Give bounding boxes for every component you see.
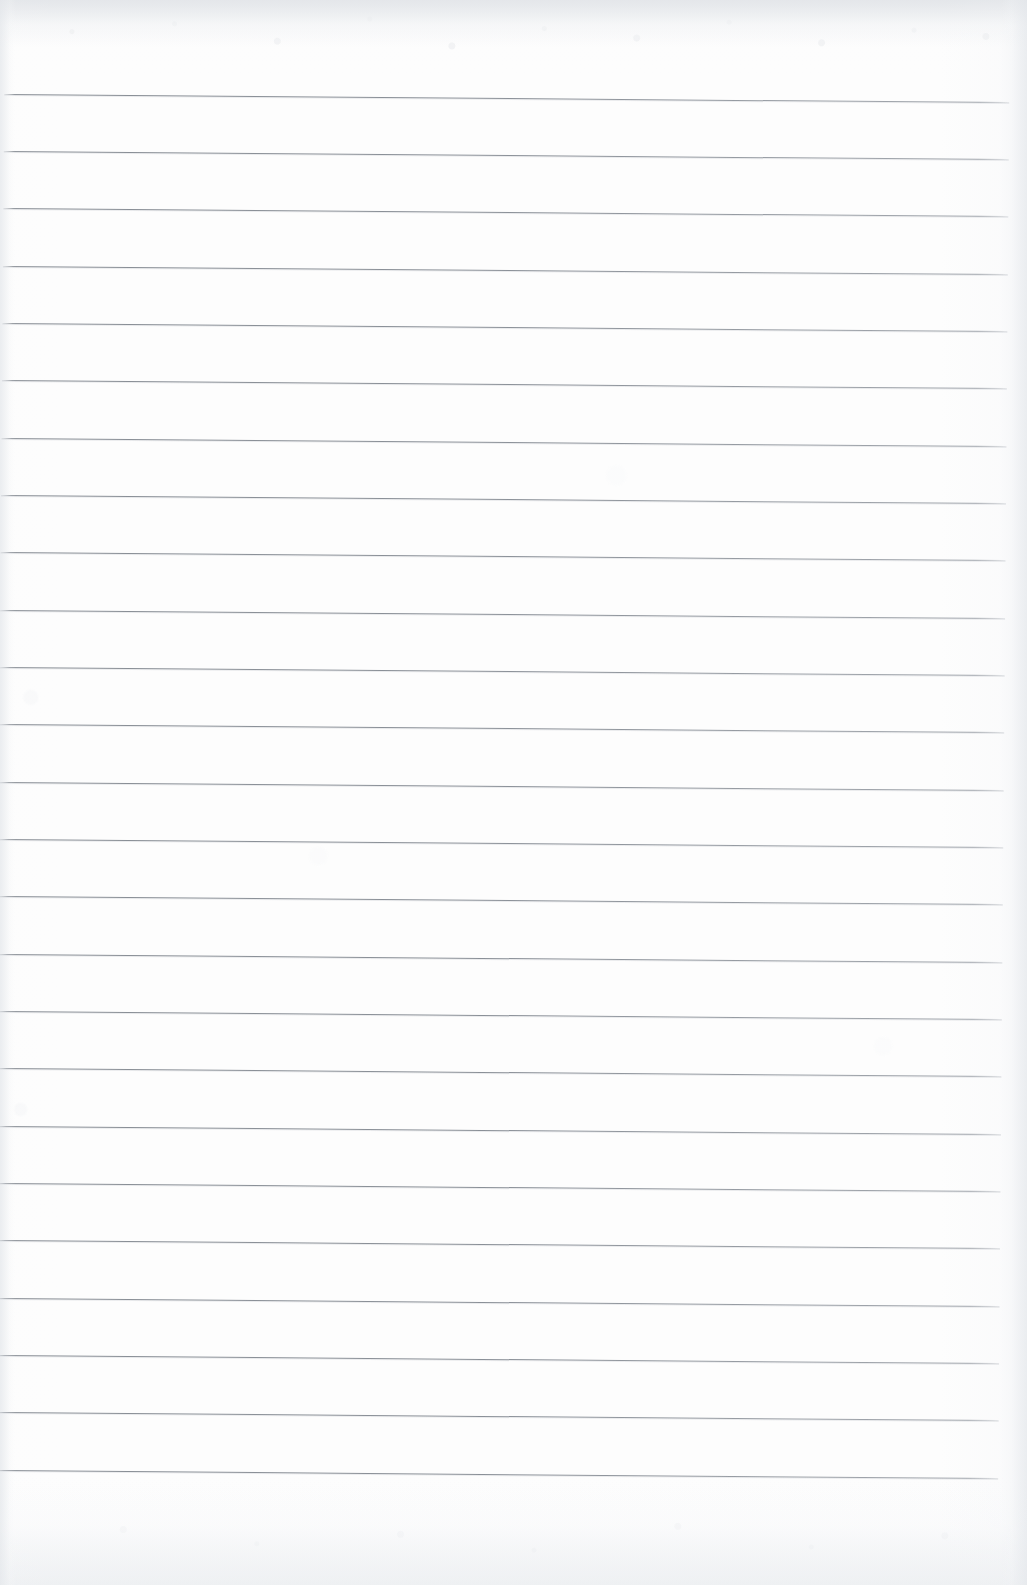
rule-line bbox=[0, 954, 1002, 963]
rule-line bbox=[0, 1183, 1000, 1192]
scan-edge-shadow-bottom bbox=[0, 1475, 1027, 1585]
scan-edge-shadow-top bbox=[0, 0, 1027, 46]
rule-line bbox=[4, 151, 1009, 160]
scan-edge-shadow-right bbox=[1001, 0, 1027, 1585]
rule-line bbox=[0, 610, 1005, 619]
rule-line bbox=[1, 495, 1006, 504]
rule-line bbox=[4, 94, 1009, 103]
rule-line bbox=[0, 724, 1004, 733]
rule-line bbox=[0, 1355, 999, 1364]
rule-line bbox=[3, 266, 1008, 275]
scan-edge-shadow-left bbox=[0, 0, 16, 1585]
ruled-lines-layer bbox=[0, 0, 1027, 1585]
rule-line bbox=[0, 782, 1004, 791]
rule-line bbox=[0, 1412, 999, 1421]
rule-line bbox=[0, 1240, 1000, 1249]
rule-line bbox=[0, 896, 1003, 905]
rule-line bbox=[0, 1011, 1002, 1020]
scanned-page: Blank Ruled Notebook Page writing area bbox=[0, 0, 1027, 1585]
rule-line bbox=[0, 1298, 1000, 1307]
rule-line bbox=[2, 380, 1007, 389]
rule-line bbox=[1, 552, 1006, 561]
rule-line bbox=[0, 839, 1003, 848]
rule-line bbox=[0, 1068, 1001, 1077]
rule-line bbox=[0, 667, 1005, 676]
rule-line bbox=[2, 323, 1007, 332]
rule-line bbox=[0, 1126, 1001, 1135]
rule-line bbox=[3, 208, 1008, 217]
rule-line bbox=[1, 438, 1006, 447]
